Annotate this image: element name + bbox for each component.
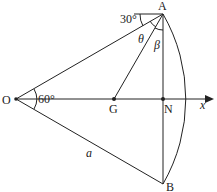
label-x-axis: x — [199, 98, 206, 112]
label-G: G — [109, 102, 118, 116]
sector-diagram: O A B G N x 60° 30° θ β a — [0, 0, 217, 192]
label-angle-60: 60° — [38, 92, 55, 106]
label-side-a: a — [86, 146, 92, 160]
label-beta: β — [153, 38, 160, 52]
label-angle-30: 30° — [120, 12, 137, 26]
label-N: N — [164, 102, 173, 116]
label-B: B — [166, 180, 174, 192]
radius-OB — [16, 99, 163, 184]
point-O — [14, 97, 18, 101]
point-G — [112, 97, 116, 101]
angle-arc-30 — [140, 14, 143, 26]
angle-arc-theta — [150, 21, 156, 27]
angle-arc-beta — [155, 28, 163, 30]
x-axis-arrowhead-icon — [205, 95, 214, 103]
label-O: O — [2, 93, 11, 107]
label-theta: θ — [138, 32, 144, 46]
point-N — [161, 97, 165, 101]
radius-OA — [16, 14, 163, 99]
label-A: A — [158, 0, 167, 13]
